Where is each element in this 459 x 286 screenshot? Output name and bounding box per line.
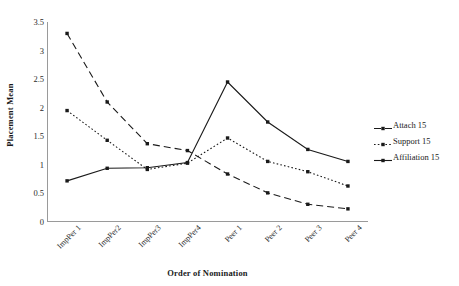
data-point-marker	[266, 160, 269, 163]
chart-legend: Attach 15Support 15Affiliation 15	[374, 117, 459, 165]
series-lines	[47, 22, 368, 222]
data-point-marker	[146, 142, 149, 145]
data-point-marker	[226, 136, 229, 139]
legend-item-label: Support 15	[393, 136, 431, 146]
y-axis-tick-label: 3.5	[18, 18, 44, 27]
legend-item-support-15[interactable]: Support 15	[374, 133, 459, 149]
data-point-marker	[226, 172, 229, 175]
y-axis-tick-label: 0	[18, 218, 44, 227]
legend-item-label: Affiliation 15	[393, 152, 439, 162]
x-axis-tick-label-text: ImpPer3	[138, 224, 163, 249]
data-point-marker	[105, 100, 108, 103]
data-point-marker	[146, 166, 149, 169]
data-point-marker	[306, 203, 309, 206]
y-axis-tick-labels: 00.511.522.533.5	[16, 0, 44, 286]
y-axis-tick-label: 1.5	[18, 132, 44, 141]
x-axis-tick-label-text: ImpPer4	[178, 224, 203, 249]
y-axis-tick-label: 0.5	[18, 189, 44, 198]
data-point-marker	[306, 148, 309, 151]
x-axis-tick-label-text: Peer 1	[223, 224, 243, 244]
x-axis-tick-label-text: ImpPer2	[98, 224, 123, 249]
data-point-marker	[266, 120, 269, 123]
plot-area	[47, 22, 368, 222]
data-point-marker	[266, 191, 269, 194]
x-axis-tick-label-text: ImpPer 1	[56, 224, 83, 251]
legend-item-attach-15[interactable]: Attach 15	[374, 117, 459, 133]
x-axis-title: Order of Nomination	[47, 268, 368, 278]
chart-figure: Placement Mean 00.511.522.533.5 ImpPer 1…	[0, 0, 459, 286]
data-point-marker	[346, 160, 349, 163]
legend-item-affiliation-15[interactable]: Affiliation 15	[374, 149, 459, 165]
data-point-marker	[105, 167, 108, 170]
data-point-marker	[306, 170, 309, 173]
data-point-marker	[186, 149, 189, 152]
data-point-marker	[346, 207, 349, 210]
data-point-marker	[226, 80, 229, 83]
x-axis-tick-label-text: Peer 3	[304, 224, 324, 244]
data-point-marker	[65, 32, 68, 35]
legend-swatch-icon	[374, 152, 392, 163]
data-point-marker	[65, 179, 68, 182]
y-axis-tick-label: 2	[18, 103, 44, 112]
x-axis-tick-label-text: Peer 2	[263, 224, 283, 244]
data-point-marker	[346, 184, 349, 187]
data-point-marker	[65, 109, 68, 112]
legend-swatch-icon	[374, 136, 392, 147]
y-axis-tick-label: 3	[18, 46, 44, 55]
data-point-marker	[186, 161, 189, 164]
legend-swatch-icon	[374, 120, 392, 131]
x-axis-tick-labels: ImpPer 1ImpPer2ImpPer3ImpPer4Peer 1Peer …	[47, 224, 368, 272]
x-axis-tick-label-text: Peer 4	[344, 224, 364, 244]
y-axis-tick-label: 1	[18, 161, 44, 170]
y-axis-title-text: Placement Mean	[5, 83, 15, 146]
y-axis-tick-label: 2.5	[18, 75, 44, 84]
series-line-affiliation-15	[67, 82, 348, 181]
legend-item-label: Attach 15	[393, 120, 426, 130]
data-point-marker	[105, 139, 108, 142]
